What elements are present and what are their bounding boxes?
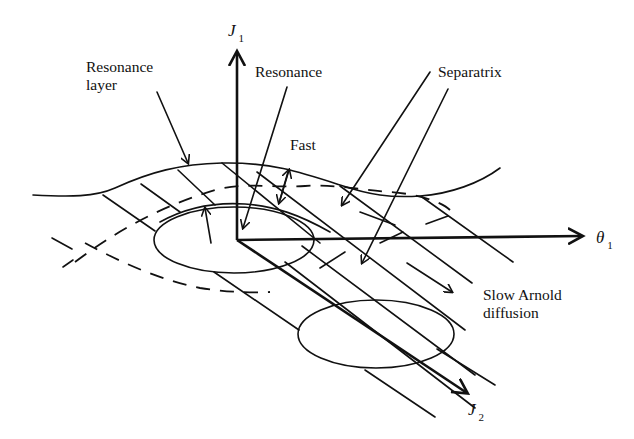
slow-arnold-label-line1: Slow Arnold [483,286,562,304]
theta1-axis-label: θ1 [596,229,613,248]
j1-axis-label: J1 [228,22,244,41]
slow-arnold-diffusion-label: Slow Arnold diffusion [483,286,562,322]
inner-island-arrow [205,208,211,243]
j2-symbol: J [468,400,476,419]
separatrix-dashed-lower [85,243,270,292]
resonance-layer-label: Resonance layer [86,58,153,94]
separatrix-dash-cross [63,260,73,267]
resonance-layer-label-line1: Resonance [86,58,153,76]
j2-axis [237,240,467,393]
j1-symbol: J [228,21,236,40]
resonance-label: Resonance [255,63,322,81]
slow-diffusion-arrow [407,263,452,292]
diagonal-hatch-lines [103,163,513,417]
fast-label: Fast [290,136,316,154]
separatrix-label: Separatrix [438,63,502,81]
theta1-symbol: θ [596,228,604,247]
separatrix-leader-1 [342,72,430,205]
resonance-layer-label-line2: layer [86,76,153,94]
j2-axis-label: J2 [468,401,484,420]
slow-arnold-label-line2: diffusion [483,304,562,322]
j2-subscript: 2 [479,411,485,423]
j1-subscript: 1 [239,32,245,44]
arnold-diffusion-diagram: J1 θ1 J2 Resonance layer Resonance Fast … [0,0,634,439]
fast-arrow-down [279,172,288,203]
theta1-subscript: 1 [607,239,613,251]
resonance-layer-leader [157,92,188,163]
